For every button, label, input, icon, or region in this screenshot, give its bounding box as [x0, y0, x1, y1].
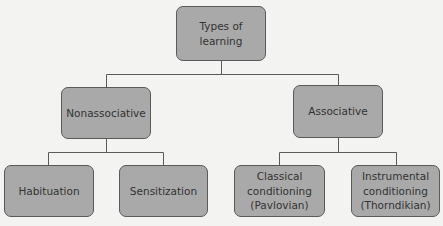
node-associative: Associative [293, 85, 383, 138]
node-instrumental-conditioning: Instrumental conditioning (Thorndikian) [351, 165, 440, 217]
learning-types-tree-diagram: Types of learning Nonassociative Associa… [0, 0, 443, 226]
node-nonassociative: Nonassociative [61, 87, 151, 139]
node-types-of-learning: Types of learning [176, 6, 266, 61]
node-classical-conditioning: Classical conditioning (Pavlovian) [234, 165, 325, 217]
node-habituation: Habituation [4, 165, 94, 217]
node-sensitization: Sensitization [119, 165, 208, 217]
